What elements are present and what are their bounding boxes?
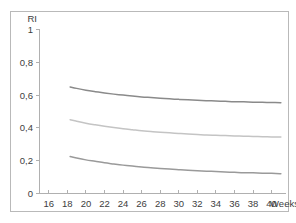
y-tick-label: 0,8 <box>20 57 33 68</box>
data-curve-lower-curve <box>70 157 281 174</box>
y-tick-label: 0 <box>28 188 33 199</box>
x-tick-label: 18 <box>62 198 73 209</box>
x-tick-label: 24 <box>118 198 129 209</box>
y-tick-label: 0,2 <box>20 155 33 166</box>
y-tick-label: 0,6 <box>20 90 33 101</box>
y-tick-label: 0,4 <box>20 122 33 133</box>
data-curve-middle-curve <box>70 120 281 137</box>
x-tick-label: 34 <box>211 198 222 209</box>
x-tick-label: 26 <box>136 198 147 209</box>
x-tick-label: 38 <box>248 198 259 209</box>
chart-plot-area: 00,20,40,60,81 1618202224262830323436384… <box>0 0 296 223</box>
x-axis-ticks: 16182022242628303234363840 <box>43 190 276 209</box>
y-axis-ticks: 00,20,40,60,81 <box>20 24 40 199</box>
x-tick-label: 36 <box>229 198 240 209</box>
x-tick-label: 32 <box>192 198 203 209</box>
x-tick-label: 28 <box>155 198 166 209</box>
x-tick-label: 30 <box>173 198 184 209</box>
data-curves <box>70 87 281 174</box>
chart-figure: 00,20,40,60,81 1618202224262830323436384… <box>0 0 296 223</box>
y-tick-label: 1 <box>28 24 33 35</box>
x-tick-label: 16 <box>43 198 54 209</box>
y-axis-title: RI <box>28 13 38 24</box>
data-curve-upper-curve <box>70 87 281 103</box>
x-tick-label: 20 <box>81 198 92 209</box>
x-axis-title: Weeks <box>270 198 296 209</box>
x-tick-label: 22 <box>99 198 110 209</box>
